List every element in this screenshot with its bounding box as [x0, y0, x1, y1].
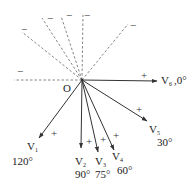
dashed-line-opp-V3 [61, 16, 82, 80]
dashed-line-opp-V5 [22, 32, 82, 80]
vector-arrow-v1 [39, 80, 82, 138]
dashed-line-opp-V4 [42, 18, 82, 80]
minus-sign: − [66, 9, 72, 21]
vector-arrows [39, 79, 157, 152]
plus-sign: + [136, 103, 142, 115]
minus-sign: − [47, 12, 53, 24]
plus-sign: + [86, 135, 92, 147]
labels: O −−−−−−+V1120°+V290°+V375°+V460°+V530°+… [12, 9, 187, 180]
minus-sign: − [21, 23, 27, 35]
plus-sign: + [100, 133, 106, 145]
minus-sign: − [17, 65, 23, 77]
plus-sign: + [51, 127, 57, 139]
vector-label-v4: V4 [112, 150, 123, 163]
vector-label-v6: V6 [161, 74, 172, 87]
vector-label-v5: V5 [149, 123, 160, 136]
vector-label-v1: V1 [27, 140, 38, 153]
minus-sign: − [130, 19, 136, 31]
angle-label-v4: 60° [117, 164, 132, 176]
angle-label-v2: 90° [75, 168, 90, 180]
dashed-extensions [14, 15, 128, 80]
vector-label-v3: V3 [95, 155, 106, 168]
vector-label-v2: V2 [75, 155, 86, 168]
origin-label: O [63, 82, 71, 94]
dashed-line-opp-V2 [82, 15, 83, 80]
angle-label-v1: 120° [12, 155, 33, 167]
angle-label-v5: 30° [157, 136, 172, 148]
angle-label-v3: 75° [95, 168, 110, 180]
minus-sign: − [84, 9, 90, 21]
dashed-line-opp-V1 [82, 24, 128, 80]
origin-point [81, 79, 84, 82]
phasor-diagram: O −−−−−−+V1120°+V290°+V375°+V460°+V530°+… [0, 0, 191, 191]
plus-sign: + [141, 69, 147, 81]
angle-label-v6: ,0° [174, 74, 187, 86]
plus-sign: + [113, 129, 119, 141]
vector-arrow-v2 [81, 80, 82, 148]
